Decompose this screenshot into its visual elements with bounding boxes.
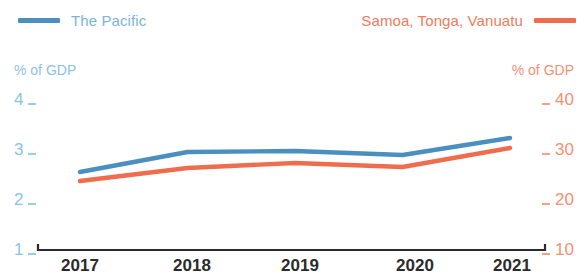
- x-axis-tick-2017: 2017: [61, 256, 99, 276]
- x-axis-line: [38, 244, 545, 250]
- x-axis-tick-2018: 2018: [173, 256, 211, 276]
- series-line-the-pacific: [80, 138, 510, 172]
- plot-area: [0, 0, 584, 278]
- x-axis-tick-2019: 2019: [281, 256, 319, 276]
- x-axis-tick-2021: 2021: [493, 256, 531, 276]
- x-axis-tick-2020: 2020: [396, 256, 434, 276]
- chart-container: The Pacific Samoa, Tonga, Vanuatu % of G…: [0, 0, 584, 278]
